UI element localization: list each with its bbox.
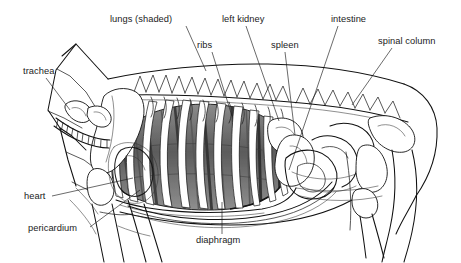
anatomy-diagram-canvas: lungs (shaded) trachea ribs left kidney … — [0, 0, 461, 263]
label-spleen: spleen — [271, 40, 299, 50]
label-left-kidney: left kidney — [222, 14, 265, 24]
label-heart: heart — [24, 191, 46, 201]
label-lungs: lungs (shaded) — [110, 14, 172, 24]
label-spinal-column: spinal column — [378, 36, 436, 46]
label-pericardium: pericardium — [28, 223, 77, 233]
label-ribs: ribs — [197, 40, 212, 50]
label-intestine: intestine — [331, 14, 366, 24]
label-diaphragm: diaphragm — [196, 235, 241, 245]
anatomy-figure: lungs (shaded) trachea ribs left kidney … — [0, 0, 461, 263]
label-trachea: trachea — [23, 66, 55, 76]
